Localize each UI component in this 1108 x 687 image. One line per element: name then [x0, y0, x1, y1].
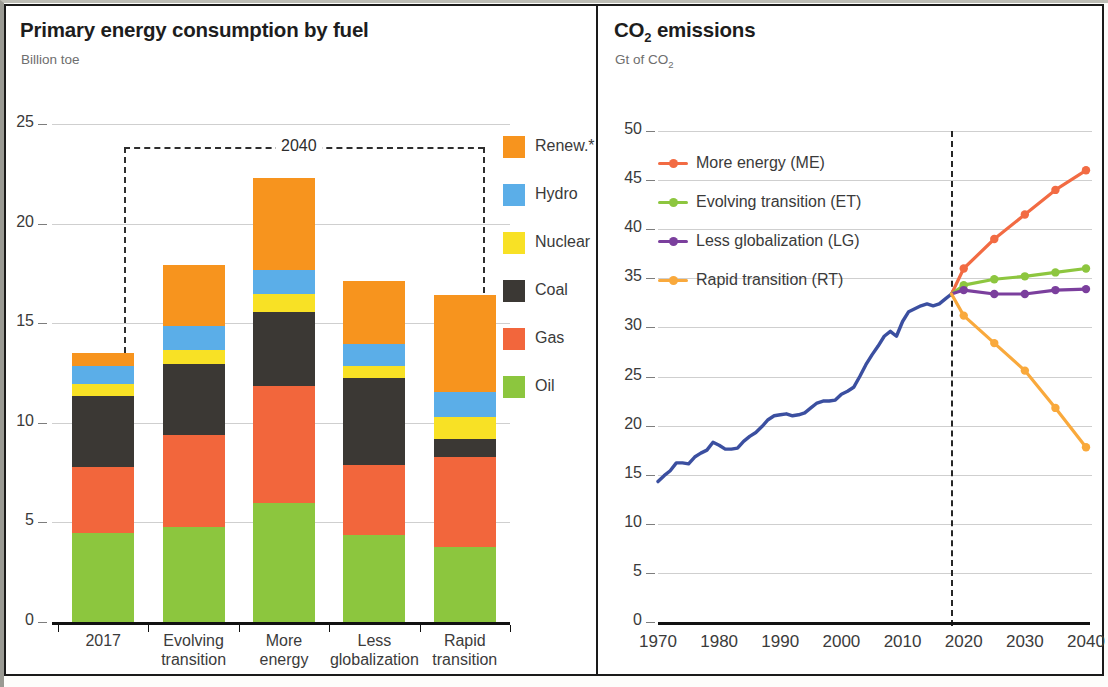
data-point-marker: [960, 264, 968, 272]
bar-segment-gas: [343, 465, 405, 535]
left-panel-subtitle: Billion toe: [21, 52, 80, 67]
bar-segment-hydro: [253, 269, 315, 294]
stacked-bar: [253, 178, 315, 622]
line-series-lessglobalizationlg: [951, 289, 1086, 294]
legend-marker-dot: [669, 159, 678, 168]
stacked-bar: [434, 295, 496, 622]
bar-segment-gas: [253, 385, 315, 503]
x-tick-mark: [420, 625, 421, 632]
legend-label: Rapid transition (RT): [696, 271, 843, 289]
legend-label: Nuclear: [535, 233, 590, 251]
panel-primary-energy: Primary energy consumption by fuel Billi…: [6, 6, 596, 674]
x-tick-mark: [239, 625, 240, 632]
legend-label: More energy (ME): [696, 154, 825, 172]
data-point-marker: [990, 290, 998, 298]
data-point-marker: [1051, 404, 1059, 412]
bar-segment-nuclear: [72, 383, 134, 396]
legend-marker-dot: [669, 198, 678, 207]
gridline: [50, 124, 510, 125]
legend-swatch: [503, 376, 525, 398]
data-point-marker: [960, 311, 968, 319]
x-tick-mark: [148, 625, 149, 632]
data-point-marker: [1021, 210, 1029, 218]
data-point-marker: [1082, 443, 1090, 451]
y-tick-mark: [38, 622, 47, 623]
y-tick-mark: [38, 124, 47, 125]
legend-label: Renew.*: [535, 137, 595, 155]
bar-segment-hydro: [434, 391, 496, 417]
data-point-marker: [1021, 290, 1029, 298]
legend-label: Oil: [535, 377, 555, 395]
y-axis-tick-label: 20: [0, 213, 34, 231]
bar-segment-oil: [343, 534, 405, 622]
bar-segment-coal: [343, 377, 405, 465]
bar-segment-gas: [72, 467, 134, 533]
data-point-marker: [1082, 285, 1090, 293]
data-point-marker: [1021, 272, 1029, 280]
legend-label: Coal: [535, 281, 568, 299]
data-point-marker: [990, 339, 998, 347]
panel-co2-emissions: CO2 emissions Gt of CO2 0510152025303540…: [600, 6, 1102, 674]
x-axis-label: Rapidtransition: [395, 632, 535, 669]
data-point-marker: [1082, 166, 1090, 174]
legend-marker-dot: [669, 237, 678, 246]
scenario-legend-item-moreenergyme[interactable]: More energy (ME): [658, 154, 958, 176]
y-axis-tick-label: 25: [0, 113, 34, 131]
stacked-bar: [72, 353, 134, 622]
co2-lines-svg: [600, 6, 1102, 674]
legend-swatch: [503, 184, 525, 206]
line-series-rapidtransitionrt: [951, 294, 1086, 447]
bar-segment-renew: [434, 295, 496, 391]
legend-swatch: [503, 280, 525, 302]
bar-segment-nuclear: [253, 293, 315, 312]
bar-segment-nuclear: [434, 417, 496, 440]
bar-segment-gas: [434, 457, 496, 547]
bar-segment-hydro: [343, 343, 405, 366]
y-tick-mark: [38, 522, 47, 523]
bracket-label-2040: 2040: [276, 137, 322, 155]
x-tick-mark: [58, 625, 59, 632]
x-tick-mark: [510, 625, 511, 632]
x-axis-tick-label: 2040: [1041, 632, 1108, 652]
data-point-marker: [1051, 286, 1059, 294]
right-x-axis-line: [658, 622, 1090, 625]
bar-segment-renew: [72, 353, 134, 366]
legend-swatch: [503, 232, 525, 254]
left-y-axis-line: [50, 124, 52, 625]
y-axis-tick-label: 10: [0, 412, 34, 430]
legend-label: Less globalization (LG): [696, 232, 860, 250]
y-tick-mark: [38, 224, 47, 225]
bar-segment-renew: [163, 265, 225, 325]
data-point-marker: [960, 286, 968, 294]
data-point-marker: [990, 275, 998, 283]
legend-label: Evolving transition (ET): [696, 193, 861, 211]
left-x-axis-line: [50, 622, 510, 625]
y-axis-tick-label: 15: [0, 312, 34, 330]
legend-marker-dot: [669, 276, 678, 285]
bar-segment-nuclear: [163, 349, 225, 364]
legend-swatch: [503, 328, 525, 350]
bar-segment-oil: [72, 532, 134, 622]
legend-swatch: [503, 136, 525, 158]
data-point-marker: [1051, 268, 1059, 276]
y-tick-mark: [38, 323, 47, 324]
data-point-marker: [1082, 264, 1090, 272]
figure-root: Primary energy consumption by fuel Billi…: [0, 0, 1108, 687]
bar-segment-hydro: [72, 365, 134, 384]
bar-segment-coal: [72, 395, 134, 467]
bar-segment-coal: [434, 439, 496, 458]
y-tick-mark: [38, 423, 47, 424]
stacked-bar: [343, 281, 405, 622]
scenario-legend-item-evolvingtransitionet[interactable]: Evolving transition (ET): [658, 193, 958, 215]
scenario-legend-item-lessglobalizationlg[interactable]: Less globalization (LG): [658, 232, 958, 254]
data-point-marker: [1021, 366, 1029, 374]
data-point-marker: [1051, 186, 1059, 194]
x-tick-mark: [329, 625, 330, 632]
bar-segment-coal: [163, 363, 225, 435]
bar-segment-oil: [163, 526, 225, 622]
data-point-marker: [990, 235, 998, 243]
scenario-legend-item-rapidtransitionrt[interactable]: Rapid transition (RT): [658, 271, 958, 293]
bar-segment-gas: [163, 435, 225, 527]
legend-label: Gas: [535, 329, 564, 347]
stacked-bar: [163, 265, 225, 622]
